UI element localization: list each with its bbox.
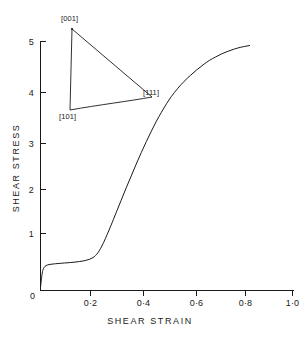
x-tick-label-0-4: 0·4: [137, 298, 151, 308]
shear-stress-strain-chart: 5 4 3 2 1 0 0·2 0·4 0·6 0·8 1·0 SHEAR ST…: [0, 0, 306, 337]
pole-dot-icon: [71, 28, 73, 30]
y-tick-label-2: 2: [29, 185, 34, 195]
inset-label-111: [111]: [143, 88, 159, 97]
y-axis-ticks: [41, 42, 46, 234]
figure-container: 5 4 3 2 1 0 0·2 0·4 0·6 0·8 1·0 SHEAR ST…: [0, 0, 306, 337]
x-axis-title: SHEAR STRAIN: [107, 316, 193, 326]
y-tick-label-3: 3: [29, 139, 34, 149]
triangle-outline: [70, 29, 152, 110]
inset-label-001: [001]: [61, 14, 78, 23]
x-axis-ticks: [91, 291, 293, 296]
y-tick-label-5: 5: [29, 37, 34, 47]
x-tick-label-0-8: 0·8: [239, 298, 253, 308]
y-tick-label-1: 1: [29, 229, 34, 239]
origin-tick-label: 0: [30, 291, 35, 301]
x-tick-label-0-6: 0·6: [190, 298, 204, 308]
x-tick-label-1-0: 1·0: [286, 298, 300, 308]
y-tick-label-4: 4: [29, 88, 34, 98]
stereographic-triangle-inset: [001] [101] [111]: [59, 14, 159, 121]
y-axis-title: SHEAR STRESS: [11, 124, 21, 213]
data-curve: [41, 45, 250, 287]
inset-label-101: [101]: [59, 112, 76, 121]
x-tick-label-0-2: 0·2: [84, 298, 98, 308]
